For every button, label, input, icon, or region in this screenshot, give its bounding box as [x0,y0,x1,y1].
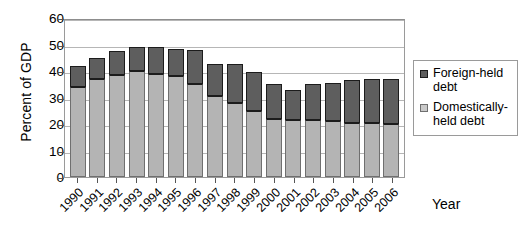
bar-segment-foreign [129,47,145,71]
x-tick-mark [156,178,157,183]
x-tick-mark [274,178,275,183]
bar-segment-domestic [246,111,262,177]
stacked-bar [227,64,243,177]
bar-column [225,20,245,177]
bar-column [205,20,225,177]
y-axis-ticks: 6050403020100 [0,0,64,235]
bar-column [166,20,186,177]
plot-area [64,19,405,178]
chart-legend: Foreign-held debt Domestically-held debt [413,60,518,136]
legend-item-domestic: Domestically-held debt [420,101,512,128]
bar-segment-domestic [207,96,223,177]
x-tick-mark [77,178,78,183]
x-tick-mark [136,178,137,183]
bar-segment-foreign [70,66,86,87]
x-axis-title: Year [432,196,460,212]
bar-segment-domestic [383,124,399,177]
y-tick-mark [57,125,64,126]
domestic-swatch-icon [420,104,428,112]
x-tick-mark [333,178,334,183]
bar-segment-foreign [305,84,321,120]
bar-segment-domestic [187,84,203,177]
bar-segment-domestic [266,119,282,177]
bar-segment-foreign [325,83,341,121]
bar-column [362,20,382,177]
bar-segment-domestic [227,103,243,177]
stacked-bar [266,84,282,177]
x-tick-mark [313,178,314,183]
bar-segment-domestic [148,74,164,177]
x-tick-mark [97,178,98,183]
bar-segment-foreign [168,49,184,77]
bar-segment-foreign [285,90,301,120]
x-tick-mark [392,178,393,183]
bar-segment-foreign [89,58,105,79]
bar-segment-domestic [89,79,105,177]
bar-segment-foreign [227,64,243,102]
bar-column [284,20,304,177]
legend-label-foreign: Foreign-held debt [433,67,512,94]
stacked-bar [383,79,399,177]
y-tick-mark [57,178,64,179]
legend-label-domestic: Domestically-held debt [433,101,512,128]
y-tick-mark [57,72,64,73]
bar-column [264,20,284,177]
stacked-bar [187,50,203,177]
bar-segment-foreign [246,72,262,110]
stacked-bar [246,72,262,177]
bar-segment-domestic [364,123,380,177]
stacked-bar [70,66,86,177]
stacked-bar [305,84,321,177]
stacked-bar [168,49,184,178]
bar-column [127,20,147,177]
bar-column [146,20,166,177]
bar-segment-foreign [383,79,399,124]
bar-column [303,20,323,177]
bar-column [382,20,402,177]
bar-segment-foreign [344,80,360,122]
bar-segment-domestic [129,71,145,177]
bar-series-container [65,20,404,177]
x-tick-mark [195,178,196,183]
stacked-bar [344,80,360,177]
bar-column [186,20,206,177]
foreign-swatch-icon [420,70,428,78]
bar-segment-domestic [168,76,184,177]
y-tick-mark [57,46,64,47]
stacked-bar [109,51,125,177]
y-tick-mark [57,152,64,153]
x-tick-mark [175,178,176,183]
y-tick-mark [57,99,64,100]
legend-item-foreign: Foreign-held debt [420,67,512,94]
bar-column [107,20,127,177]
bar-segment-foreign [207,64,223,96]
x-tick-mark [372,178,373,183]
x-tick-mark [294,178,295,183]
x-tick-mark [353,178,354,183]
x-tick-mark [215,178,216,183]
x-label-cell: 2006 [382,184,402,232]
bar-column [244,20,264,177]
bar-segment-foreign [148,47,164,74]
stacked-bar [207,64,223,177]
bar-segment-foreign [364,79,380,123]
x-tick-mark [234,178,235,183]
stacked-bar-chart: Percent of GDP 6050403020100 19901991199… [0,0,523,235]
stacked-bar [364,79,380,177]
bar-segment-foreign [187,50,203,84]
bar-segment-domestic [305,120,321,177]
stacked-bar [148,47,164,177]
y-tick-mark [57,19,64,20]
bar-column [88,20,108,177]
bar-segment-domestic [325,121,341,177]
stacked-bar [89,58,105,177]
bar-segment-domestic [109,75,125,177]
bar-segment-domestic [70,87,86,177]
bar-column [342,20,362,177]
x-tick-mark [254,178,255,183]
bar-segment-foreign [266,84,282,118]
bar-segment-domestic [285,120,301,177]
stacked-bar [129,47,145,177]
bar-column [323,20,343,177]
bar-segment-domestic [344,123,360,177]
